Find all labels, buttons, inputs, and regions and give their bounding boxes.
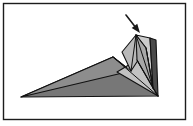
origami-diagram [0,0,193,126]
figure-border [4,4,186,120]
origami-figure-panel: Diagram of a partially folded paper mode… [0,0,193,126]
